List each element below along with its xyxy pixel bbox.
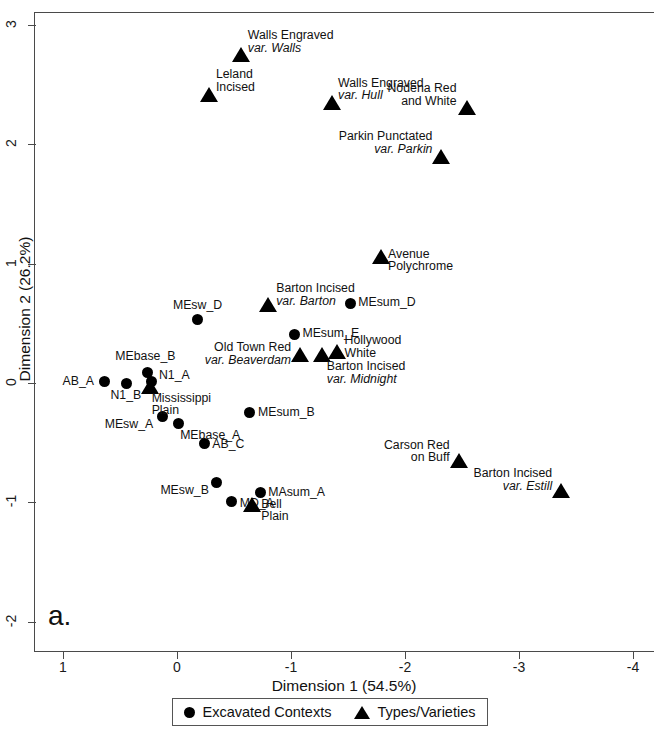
legend-label: Excavated Contexts xyxy=(202,704,331,720)
data-point-label: Barton Incisedvar. Barton xyxy=(276,282,436,307)
x-tick xyxy=(405,651,406,659)
x-tick-label: 0 xyxy=(162,659,192,675)
data-point-label: AB_A xyxy=(0,375,94,388)
y-tick xyxy=(28,144,36,145)
legend-entry: Types/Varieties xyxy=(354,704,475,720)
data-point-triangle xyxy=(432,149,450,164)
data-point-label: MEsw_A xyxy=(0,418,153,431)
x-tick xyxy=(177,651,178,659)
data-point-circle xyxy=(121,378,132,389)
x-tick xyxy=(291,651,292,659)
x-tick xyxy=(519,651,520,659)
data-point-label: Barton Incisedvar. Midnight xyxy=(327,360,487,385)
y-tick xyxy=(28,25,36,26)
x-axis-line xyxy=(34,651,654,652)
x-axis-title: Dimension 1 (54.5%) xyxy=(34,677,654,695)
data-point-circle xyxy=(289,329,300,340)
data-point-triangle xyxy=(291,347,309,362)
x-tick-label: -1 xyxy=(276,659,306,675)
data-point-label: MississippiPlain xyxy=(152,392,312,417)
panel-letter: a. xyxy=(48,600,71,632)
scatter-plot-figure: 3210-1-2 10-1-2-3-4 Dimension 2 (26.2%) … xyxy=(0,0,656,732)
y-tick-label: -1 xyxy=(3,488,19,514)
x-tick-label: -2 xyxy=(390,659,420,675)
data-point-label: N1_A xyxy=(159,369,319,382)
legend-circle-icon xyxy=(184,707,195,718)
y-tick-label: 2 xyxy=(3,130,19,156)
data-point-label: Nodena Redand White xyxy=(297,82,457,107)
y-axis-title: Dimension 2 (26.2%) xyxy=(16,189,34,429)
data-point-label: MEsw_D xyxy=(118,299,278,312)
x-tick xyxy=(633,651,634,659)
y-tick-label: 3 xyxy=(3,11,19,37)
y-tick xyxy=(28,502,36,503)
data-point-label: Parkin Punctatedvar. Parkin xyxy=(272,130,432,155)
data-point-triangle xyxy=(259,297,277,312)
data-point-label: Old Town Redvar. Beaverdam xyxy=(131,341,291,366)
data-point-triangle xyxy=(458,100,476,115)
data-point-triangle xyxy=(328,344,346,359)
data-point-label: Carson Redon Buff xyxy=(290,439,450,464)
data-point-triangle xyxy=(243,497,261,512)
data-point-label: Walls Engravedvar. Walls xyxy=(248,29,408,54)
data-point-triangle xyxy=(552,483,570,498)
y-tick xyxy=(28,622,36,623)
data-point-circle xyxy=(211,477,222,488)
data-point-label: BellPlain xyxy=(261,498,421,523)
data-point-circle xyxy=(226,496,237,507)
legend-entry: Excavated Contexts xyxy=(184,704,331,720)
x-tick-label: -4 xyxy=(618,659,648,675)
data-point-label: Barton Incisedvar. Estill xyxy=(392,467,552,492)
legend-triangle-icon xyxy=(354,706,370,719)
legend-label: Types/Varieties xyxy=(377,704,475,720)
x-tick xyxy=(63,651,64,659)
data-point-circle xyxy=(99,376,110,387)
data-point-triangle xyxy=(450,453,468,468)
y-tick-label: -2 xyxy=(3,608,19,634)
x-tick-label: -3 xyxy=(504,659,534,675)
chart-legend: Excavated ContextsTypes/Varieties xyxy=(172,698,488,726)
data-point-label: HollywoodWhite xyxy=(345,334,505,359)
data-point-label: AvenuePolychrome xyxy=(388,248,548,273)
data-point-label: MEsw_B xyxy=(49,484,209,497)
x-tick-label: 1 xyxy=(48,659,78,675)
